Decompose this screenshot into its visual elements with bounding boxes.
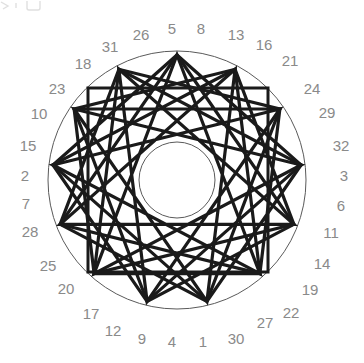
ring-label-18: 18 (75, 56, 92, 71)
figure-canvas: 5813162124293236111419222730149121720252… (0, 0, 364, 363)
inner-circle (139, 142, 215, 218)
ring-label-3: 3 (340, 168, 348, 183)
ring-label-8: 8 (197, 21, 205, 36)
ring-label-9: 9 (138, 331, 146, 346)
ring-label-19: 19 (302, 282, 319, 297)
ring-label-5: 5 (168, 21, 176, 36)
ring-label-29: 29 (319, 105, 336, 120)
ring-label-17: 17 (83, 306, 100, 321)
ring-label-25: 25 (40, 258, 57, 273)
ring-label-10: 10 (31, 106, 48, 121)
ring-label-11: 11 (323, 225, 339, 240)
ring-label-7: 7 (22, 196, 30, 211)
ring-label-6: 6 (337, 198, 345, 213)
ring-label-22: 22 (283, 305, 300, 320)
ring-label-20: 20 (58, 281, 75, 296)
ring-label-27: 27 (257, 315, 274, 330)
ring-label-21: 21 (282, 53, 299, 68)
ring-label-30: 30 (228, 331, 245, 346)
ring-label-28: 28 (22, 224, 39, 239)
ring-label-16: 16 (256, 37, 273, 52)
ring-label-24: 24 (304, 81, 321, 96)
star-polygon-group (53, 55, 301, 301)
ring-label-23: 23 (49, 81, 66, 96)
ring-label-31: 31 (102, 39, 119, 54)
star-polygon-step-4 (53, 55, 301, 301)
ring-label-1: 1 (199, 334, 207, 349)
star-polygon-diagram (0, 0, 364, 363)
inner-circle-group (139, 142, 215, 218)
ring-label-13: 13 (228, 27, 245, 42)
ring-label-12: 12 (105, 323, 122, 338)
ring-label-2: 2 (21, 168, 29, 183)
ring-label-4: 4 (168, 334, 176, 349)
ring-label-32: 32 (333, 138, 350, 153)
ring-label-26: 26 (133, 27, 150, 42)
ring-label-14: 14 (314, 256, 331, 271)
ring-label-15: 15 (20, 138, 37, 153)
